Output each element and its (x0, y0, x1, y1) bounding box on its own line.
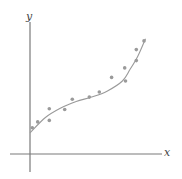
data-point (135, 48, 139, 52)
data-point (88, 95, 92, 99)
y-axis-label: y (26, 10, 32, 23)
x-axis-label: x (164, 146, 170, 159)
data-point (71, 98, 75, 102)
fit-curve (30, 39, 146, 133)
data-point (110, 76, 114, 80)
data-point (63, 108, 67, 112)
data-point (98, 90, 102, 94)
data-point (124, 79, 128, 83)
data-point (31, 126, 35, 130)
data-point (142, 39, 146, 43)
scatter-chart (0, 0, 182, 179)
data-point (36, 120, 40, 124)
data-point (135, 59, 139, 63)
data-point (123, 66, 127, 70)
data-point (48, 107, 52, 111)
data-point (48, 119, 52, 123)
